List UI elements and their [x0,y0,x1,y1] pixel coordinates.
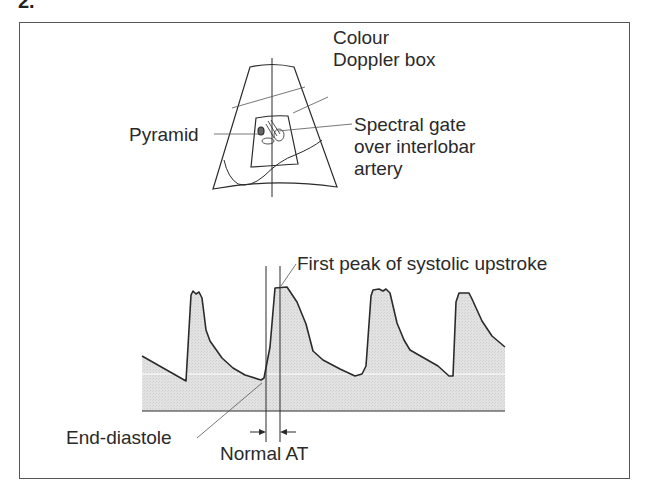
colour-doppler-box [251,116,298,167]
label-pyramid: Pyramid [129,124,199,145]
label-spectral-gate: Spectral gate [354,114,466,135]
label-over-interlobar: over interlobar [354,136,475,157]
label-normal-at: Normal AT [220,443,308,464]
label-doppler-box: Doppler box [333,49,435,70]
leader-first-peak [281,264,296,286]
arrow-left-icon [280,429,287,435]
leader-doppler-box [293,97,328,113]
waveform-fill [142,287,505,411]
label-artery: artery [354,158,403,179]
diagram-svg [0,0,652,497]
spectral-waveform [142,287,505,411]
leader-lines-top [214,87,352,134]
vessel-curve [224,140,322,185]
arrow-right-icon [259,429,266,435]
label-end-diastole: End-diastole [66,427,172,448]
label-colour: Colour [333,27,389,48]
label-first-peak: First peak of systolic upstroke [297,253,547,274]
